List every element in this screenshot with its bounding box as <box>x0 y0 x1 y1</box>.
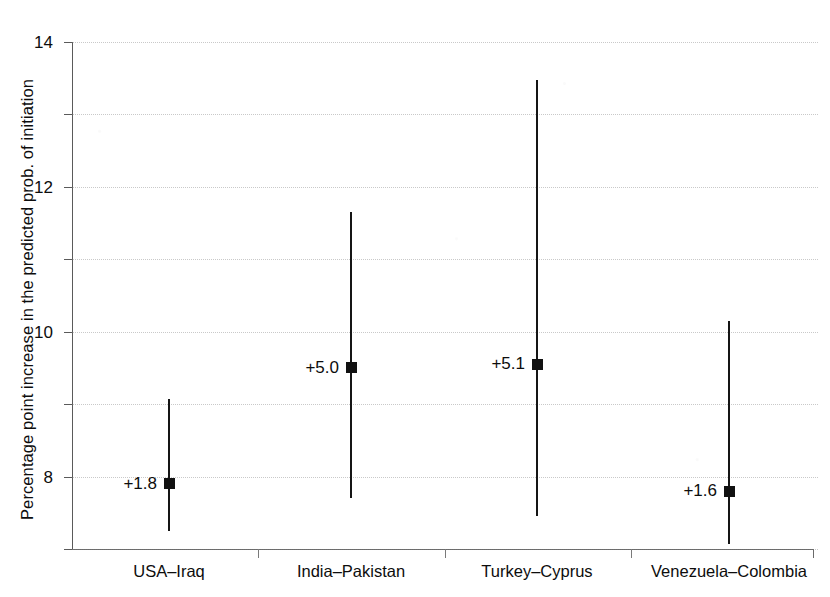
y-tick-label-8: 8 <box>44 468 53 488</box>
error-bar-chart: Percentage point increase in the predict… <box>0 0 830 597</box>
gridline-y-8 <box>72 259 818 260</box>
data-point-marker[interactable] <box>346 362 357 373</box>
y-tick-14: 14 <box>64 42 72 43</box>
data-point-label: +1.8 <box>123 474 157 494</box>
gridline-y-6 <box>72 332 818 333</box>
data-point-marker[interactable] <box>724 486 735 497</box>
gridline-y-12 <box>72 114 818 115</box>
plot-area: 02468101214 +1.8+5.0+5.1+1.6 USA–IraqInd… <box>72 42 813 549</box>
confidence-interval-line <box>168 399 171 531</box>
y-tick-6: 6 <box>64 332 72 333</box>
category-separator-1 <box>258 549 259 558</box>
y-tick-label-14: 14 <box>34 33 53 53</box>
gridline-y-14 <box>72 42 818 43</box>
confidence-interval-line <box>350 212 353 498</box>
x-axis-label-1: USA–Iraq <box>133 562 205 581</box>
gridline-y-2 <box>72 477 818 478</box>
x-axis-label-3: Turkey–Cyprus <box>481 562 592 581</box>
category-separator-2 <box>445 549 446 558</box>
y-tick-label-10: 10 <box>34 323 53 343</box>
y-axis-title: Percentage point increase in the predict… <box>18 22 37 578</box>
data-point-label: +5.1 <box>491 354 525 374</box>
data-point-marker[interactable] <box>164 478 175 489</box>
x-axis-label-2: India–Pakistan <box>297 562 405 581</box>
data-point-label: +5.0 <box>305 358 339 378</box>
confidence-interval-line <box>728 321 731 544</box>
x-axis-end-tick <box>813 549 814 558</box>
y-tick-8: 8 <box>64 259 72 260</box>
data-point-label: +1.6 <box>683 481 717 501</box>
y-tick-10: 10 <box>64 187 72 188</box>
y-tick-12: 12 <box>64 114 72 115</box>
x-axis-label-4: Venezuela–Colombia <box>651 562 807 581</box>
category-separator-3 <box>631 549 632 558</box>
gridline-y-10 <box>72 187 818 188</box>
confidence-interval-line <box>536 80 539 516</box>
y-tick-4: 4 <box>64 404 72 405</box>
gridline-y-4 <box>72 404 818 405</box>
y-tick-label-12: 12 <box>34 178 53 198</box>
y-tick-0: 0 <box>64 549 72 550</box>
y-tick-2: 2 <box>64 477 72 478</box>
data-point-marker[interactable] <box>532 359 543 370</box>
